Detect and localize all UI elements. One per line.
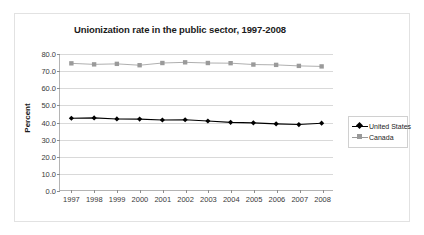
x-tick-label: 2003 xyxy=(200,195,217,204)
x-tick-label: 1999 xyxy=(109,195,126,204)
legend-swatch-icon xyxy=(352,122,368,131)
x-tick-mark xyxy=(186,190,187,193)
data-point xyxy=(69,61,73,65)
x-tick-mark xyxy=(323,190,324,193)
legend-item-united-states[interactable]: United States xyxy=(352,121,404,132)
y-tick-label: 30.0 xyxy=(41,135,56,144)
x-tick-mark xyxy=(71,190,72,193)
x-tick-label: 2005 xyxy=(246,195,263,204)
x-tick-label: 2008 xyxy=(314,195,331,204)
plot-area: 0.010.020.030.040.050.060.070.080.0 1997… xyxy=(59,54,333,191)
y-tick-label: 10.0 xyxy=(41,169,56,178)
series-line-canada xyxy=(71,62,321,66)
legend: United StatesCanada xyxy=(348,116,408,148)
y-tick-mark xyxy=(57,191,60,192)
data-point xyxy=(137,63,141,67)
data-point xyxy=(114,116,119,121)
x-tick-mark xyxy=(277,190,278,193)
chart-title: Unionization rate in the public sector, … xyxy=(15,24,345,35)
x-tick-label: 2004 xyxy=(223,195,240,204)
x-tick-mark xyxy=(254,190,255,193)
y-tick-label: 50.0 xyxy=(41,101,56,110)
x-tick-label: 2007 xyxy=(291,195,308,204)
data-point xyxy=(160,117,165,122)
x-tick-label: 1997 xyxy=(63,195,80,204)
legend-item-canada[interactable]: Canada xyxy=(352,132,404,143)
legend-label: United States xyxy=(369,123,411,130)
data-point xyxy=(319,121,324,126)
chart-frame: Unionization rate in the public sector, … xyxy=(14,13,410,222)
x-tick-label: 1998 xyxy=(86,195,103,204)
data-point xyxy=(115,62,119,66)
y-tick-label: 20.0 xyxy=(41,152,56,161)
data-point xyxy=(160,61,164,65)
data-point xyxy=(319,64,323,68)
y-tick-label: 60.0 xyxy=(41,84,56,93)
x-tick-mark xyxy=(140,190,141,193)
x-tick-mark xyxy=(300,190,301,193)
x-tick-mark xyxy=(208,190,209,193)
series-line-united-states xyxy=(71,118,321,125)
x-tick-mark xyxy=(94,190,95,193)
x-tick-label: 2002 xyxy=(177,195,194,204)
data-point xyxy=(206,61,210,65)
y-tick-label: 70.0 xyxy=(41,67,56,76)
legend-label: Canada xyxy=(369,134,394,141)
data-point xyxy=(205,118,210,123)
series-plot xyxy=(60,54,333,190)
legend-swatch-icon xyxy=(352,133,368,142)
data-point xyxy=(137,117,142,122)
y-tick-label: 80.0 xyxy=(41,50,56,59)
data-point xyxy=(228,120,233,125)
data-point xyxy=(297,64,301,68)
x-tick-label: 2000 xyxy=(132,195,149,204)
data-point xyxy=(183,117,188,122)
x-tick-mark xyxy=(117,190,118,193)
x-tick-mark xyxy=(231,190,232,193)
data-point xyxy=(228,61,232,65)
data-point xyxy=(183,60,187,64)
x-tick-label: 2006 xyxy=(269,195,286,204)
data-point xyxy=(251,62,255,66)
y-tick-label: 40.0 xyxy=(41,118,56,127)
y-tick-label: 0.0 xyxy=(46,187,56,196)
data-point xyxy=(92,115,97,120)
data-point xyxy=(274,121,279,126)
data-point xyxy=(251,120,256,125)
y-axis-title: Percent xyxy=(23,103,32,132)
data-point xyxy=(69,116,74,121)
data-point xyxy=(296,122,301,127)
x-tick-label: 2001 xyxy=(154,195,171,204)
data-point xyxy=(274,63,278,67)
data-point xyxy=(92,62,96,66)
x-tick-mark xyxy=(163,190,164,193)
